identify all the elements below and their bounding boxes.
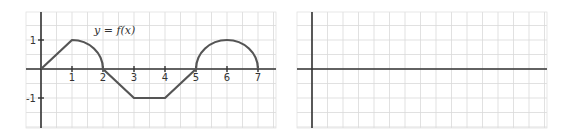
left-grid <box>26 12 276 128</box>
x-tick-label: 1 <box>69 72 75 83</box>
y-tick-label: -1 <box>26 93 36 104</box>
x-tick-label: 7 <box>255 72 261 83</box>
x-tick-label: 4 <box>162 72 168 83</box>
y-tick-label: 1 <box>30 35 36 46</box>
x-tick-label: 2 <box>100 72 106 83</box>
left-graph: 12345671-1 y = f(x) <box>0 0 571 132</box>
x-tick-label: 5 <box>193 72 199 83</box>
x-tick-label: 3 <box>131 72 137 83</box>
function-label: y = f(x) <box>93 24 135 37</box>
x-tick-label: 6 <box>224 72 230 83</box>
